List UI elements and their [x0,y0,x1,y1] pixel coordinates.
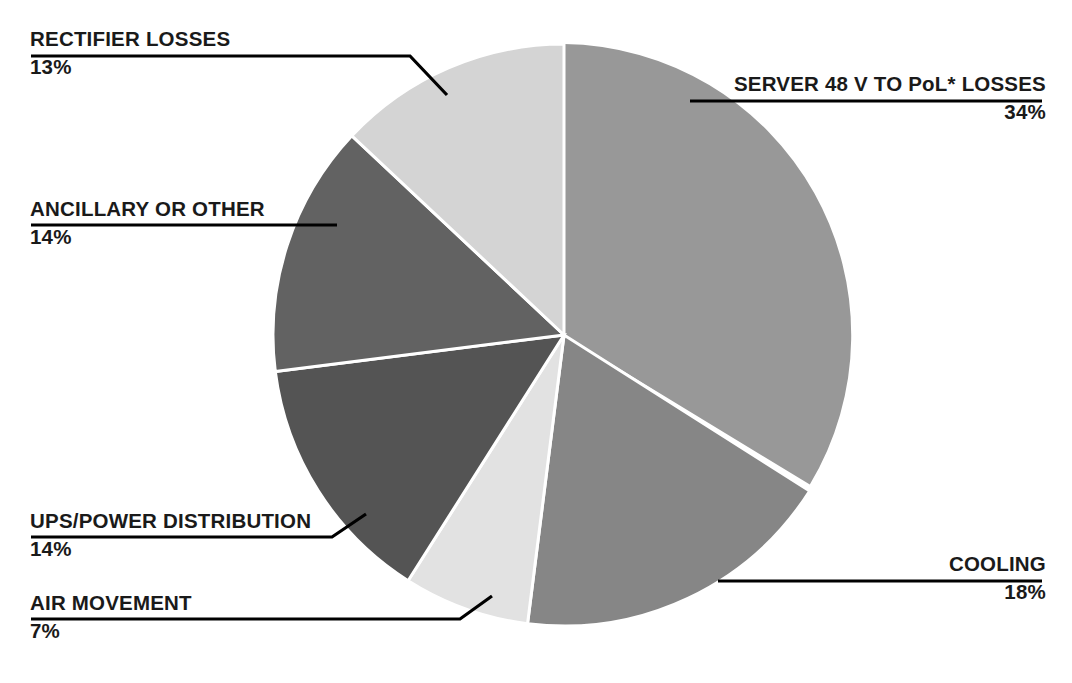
callout-label-rectifier-losses: RECTIFIER LOSSES [30,26,230,51]
callout-cooling: COOLING 18% [846,551,1046,604]
callout-value-rectifier-losses: 13% [30,51,230,79]
pie-slices [273,44,851,626]
callout-value-ups-power-distribution: 14% [30,533,311,561]
callout-ancillary-or-other: ANCILLARY OR OTHER 14% [30,196,265,249]
callout-rectifier-losses: RECTIFIER LOSSES 13% [30,26,230,79]
callout-air-movement: AIR MOVEMENT 7% [30,590,192,643]
pie-chart: RECTIFIER LOSSES 13% SERVER 48 V TO PoL*… [0,0,1072,683]
callout-server-48v-to-pol-losses: SERVER 48 V TO PoL* LOSSES 34% [733,71,1046,124]
callout-label-ancillary-or-other: ANCILLARY OR OTHER [30,196,265,221]
callout-label-air-movement: AIR MOVEMENT [30,590,192,615]
callout-value-air-movement: 7% [30,615,192,643]
callout-label-cooling: COOLING [846,551,1046,576]
callout-ups-power-distribution: UPS/POWER DISTRIBUTION 14% [30,508,311,561]
callout-label-server-48v-to-pol-losses: SERVER 48 V TO PoL* LOSSES [733,71,1046,96]
callout-value-ancillary-or-other: 14% [30,221,265,249]
callout-value-server-48v-to-pol-losses: 34% [733,96,1046,124]
callout-value-cooling: 18% [846,576,1046,604]
callout-label-ups-power-distribution: UPS/POWER DISTRIBUTION [30,508,311,533]
